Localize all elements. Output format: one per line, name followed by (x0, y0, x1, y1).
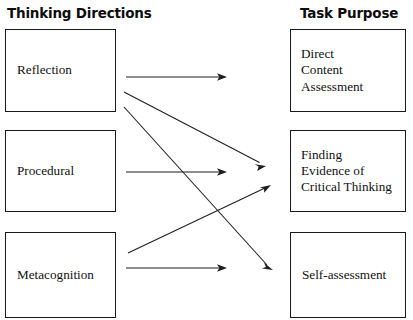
arrow-reflection-to-direct-content-assessment (126, 73, 227, 81)
node-finding-evidence-of-critical-thinking-label: Finding Evidence of Critical Thinking (291, 147, 398, 195)
flow-diagram: Thinking Directions Task Purpose Reflect… (0, 0, 413, 320)
arrow-reflection-to-finding-evidence (124, 92, 266, 171)
node-reflection-label: Reflection (6, 62, 78, 78)
node-metacognition-label: Metacognition (6, 267, 100, 283)
column-header-task-purpose: Task Purpose (300, 7, 398, 21)
arrow-metacognition-to-finding-evidence (128, 185, 271, 253)
node-reflection[interactable]: Reflection (5, 29, 116, 112)
arrow-metacognition-to-self-assessment (126, 264, 227, 272)
node-procedural-label: Procedural (6, 163, 80, 179)
node-procedural[interactable]: Procedural (5, 130, 116, 212)
node-direct-content-assessment[interactable]: Direct Content Assessment (290, 29, 406, 112)
node-finding-evidence-of-critical-thinking[interactable]: Finding Evidence of Critical Thinking (290, 130, 406, 212)
arrow-reflection-to-self-assessment (124, 107, 273, 270)
node-self-assessment[interactable]: Self-assessment (290, 232, 406, 318)
node-direct-content-assessment-label: Direct Content Assessment (291, 46, 369, 94)
arrow-procedural-to-finding-evidence (126, 168, 227, 176)
column-header-thinking-directions: Thinking Directions (7, 7, 152, 21)
node-self-assessment-label: Self-assessment (291, 267, 392, 283)
node-metacognition[interactable]: Metacognition (5, 232, 116, 318)
